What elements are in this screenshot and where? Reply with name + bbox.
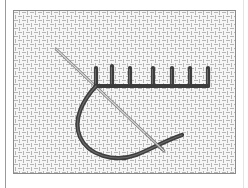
page-edge-right (243, 0, 244, 188)
stitch-diagram (14, 11, 236, 174)
blanket-stitches (95, 66, 208, 86)
page-edge-left (5, 0, 6, 188)
fabric-canvas (13, 10, 236, 174)
fabric-weave (14, 11, 236, 174)
